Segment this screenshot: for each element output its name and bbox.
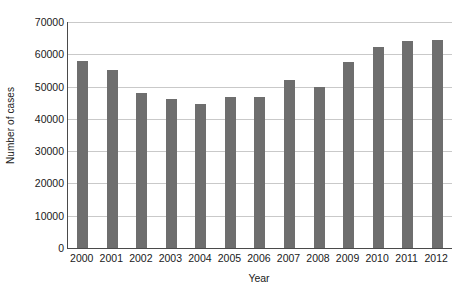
x-tick-label: 2012 — [421, 252, 451, 268]
bar[interactable] — [107, 70, 118, 248]
x-axis-title: Year — [67, 272, 451, 284]
y-tick-label: 60000 — [18, 49, 64, 59]
bar-slot — [186, 22, 216, 248]
bar-slot — [393, 22, 423, 248]
x-tick-label: 2006 — [244, 252, 274, 268]
bar-chart: Number of cases 010000200003000040000500… — [0, 0, 463, 303]
bar[interactable] — [314, 87, 325, 248]
bar-slot — [304, 22, 334, 248]
bar-slot — [334, 22, 364, 248]
y-tick-label: 40000 — [18, 114, 64, 124]
bar-slot — [98, 22, 128, 248]
bar[interactable] — [77, 61, 88, 248]
bar-slot — [68, 22, 98, 248]
bar-slot — [245, 22, 275, 248]
plot-area — [67, 22, 452, 249]
bar[interactable] — [195, 104, 206, 248]
x-tick-label: 2008 — [303, 252, 333, 268]
y-tick-label: 10000 — [18, 211, 64, 221]
bar-slot — [157, 22, 187, 248]
x-tick-label: 2007 — [274, 252, 304, 268]
bar[interactable] — [402, 41, 413, 248]
x-tick-label: 2009 — [333, 252, 363, 268]
bar[interactable] — [373, 47, 384, 248]
bar-slot — [216, 22, 246, 248]
bar[interactable] — [136, 93, 147, 248]
y-axis-title-label: Number of cases — [6, 86, 17, 163]
bar[interactable] — [166, 99, 177, 248]
bar[interactable] — [225, 97, 236, 248]
y-tick-label: 50000 — [18, 82, 64, 92]
bar[interactable] — [432, 40, 443, 248]
x-tick-label: 2000 — [67, 252, 97, 268]
x-tick-label: 2001 — [97, 252, 127, 268]
bar-slot — [127, 22, 157, 248]
y-tick-label: 0 — [18, 243, 64, 253]
x-axis-tick-labels: 2000200120022003200420052006200720082009… — [67, 252, 451, 268]
x-tick-label: 2005 — [215, 252, 245, 268]
bar-slot — [363, 22, 393, 248]
x-tick-label: 2004 — [185, 252, 215, 268]
bar[interactable] — [284, 80, 295, 248]
x-tick-label: 2003 — [156, 252, 186, 268]
y-axis-tick-labels: 010000200003000040000500006000070000 — [18, 22, 64, 248]
bar-slot — [422, 22, 452, 248]
bar[interactable] — [343, 62, 354, 248]
bars-layer — [68, 22, 452, 248]
x-tick-label: 2010 — [362, 252, 392, 268]
x-tick-label: 2011 — [392, 252, 422, 268]
y-tick-label: 30000 — [18, 146, 64, 156]
y-tick-label: 70000 — [18, 17, 64, 27]
bar-slot — [275, 22, 305, 248]
x-tick-label: 2002 — [126, 252, 156, 268]
y-tick-label: 20000 — [18, 178, 64, 188]
bar[interactable] — [254, 97, 265, 248]
